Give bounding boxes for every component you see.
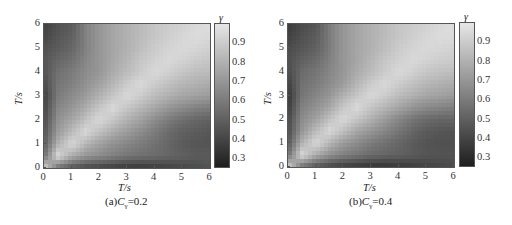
x-axis-label-b: T/s	[363, 182, 376, 193]
x-tick-label: 4	[392, 171, 404, 181]
x-tick	[342, 164, 343, 167]
y-tick-label: 1	[272, 137, 284, 147]
y-tick	[287, 47, 290, 48]
x-tick	[370, 164, 371, 167]
colorbar-b	[459, 22, 475, 167]
y-tick-label: 5	[272, 42, 284, 52]
y-tick-label: 3	[272, 90, 284, 100]
y-tick-label: 2	[272, 113, 284, 123]
x-tick	[398, 164, 399, 167]
colorbar-tick-label: 0.8	[477, 55, 490, 66]
y-tick-label: 0	[272, 161, 284, 171]
colorbar-tick-label: 0.4	[477, 132, 490, 143]
colorbar-tick-label: 0.7	[477, 74, 490, 85]
x-tick	[425, 164, 426, 167]
caption-b: (b)Cγ=0.4	[349, 195, 392, 210]
y-axis-label-b: T/s	[262, 92, 273, 105]
y-tick	[287, 118, 290, 119]
y-tick	[287, 71, 290, 72]
heatmap-plot-b	[287, 23, 455, 168]
panel-b: 0123456 0123456 T/s T/s (b)Cγ=0.4 γ 0.30…	[0, 0, 256, 225]
x-tick-label: 5	[419, 171, 431, 181]
x-tick-label: 1	[309, 171, 321, 181]
x-tick-label: 3	[364, 171, 376, 181]
y-tick	[287, 142, 290, 143]
x-tick-label: 2	[336, 171, 348, 181]
x-tick	[287, 164, 288, 167]
y-tick-label: 4	[272, 66, 284, 76]
colorbar-tick-label: 0.5	[477, 113, 490, 124]
y-tick	[287, 95, 290, 96]
y-tick-label: 6	[272, 18, 284, 28]
colorbar-tick-label: 0.3	[477, 151, 490, 162]
x-tick	[315, 164, 316, 167]
colorbar-title-b: γ	[464, 11, 468, 22]
x-tick-label: 6	[447, 171, 459, 181]
colorbar-tick-label: 0.6	[477, 93, 490, 104]
y-tick	[287, 23, 290, 24]
colorbar-tick-label: 0.9	[477, 35, 490, 46]
x-tick-label: 0	[281, 171, 293, 181]
x-tick	[453, 164, 454, 167]
